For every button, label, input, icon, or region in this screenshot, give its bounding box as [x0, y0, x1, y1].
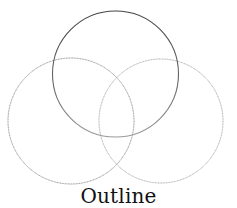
diagram-caption: Outline	[0, 184, 237, 208]
right-circle	[99, 59, 223, 183]
top-circle	[53, 11, 179, 137]
venn-diagram	[0, 0, 237, 208]
left-circle	[8, 58, 134, 184]
